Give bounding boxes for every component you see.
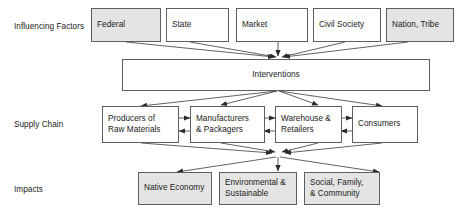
- node-consumers[interactable]: Consumers: [352, 106, 418, 143]
- node-warehouse-label: Warehouse & Retailers: [281, 114, 331, 135]
- row-label-impacts: Impacts: [14, 185, 43, 194]
- node-federal[interactable]: Federal: [91, 8, 161, 42]
- node-nation-tribe[interactable]: Nation, Tribe: [386, 8, 454, 42]
- node-interventions[interactable]: Interventions: [122, 59, 430, 91]
- node-warehouse-retailers[interactable]: Warehouse & Retailers: [275, 106, 342, 143]
- node-manufacturers-packagers[interactable]: Manufacturers & Packagers: [190, 106, 265, 143]
- node-native-economy-label: Native Economy: [144, 183, 204, 194]
- node-civil-society[interactable]: Civil Society: [313, 8, 381, 42]
- node-consumers-label: Consumers: [358, 119, 400, 130]
- node-state[interactable]: State: [166, 8, 229, 42]
- node-environmental-label: Environmental & Sustainable: [225, 178, 286, 199]
- diagram-canvas: Influencing Factors Supply Chain Impacts…: [0, 0, 463, 217]
- node-manufacturers-label: Manufacturers & Packagers: [196, 114, 249, 135]
- node-civil-society-label: Civil Society: [319, 20, 364, 31]
- node-nation-tribe-label: Nation, Tribe: [392, 20, 439, 31]
- node-native-economy[interactable]: Native Economy: [138, 172, 212, 205]
- node-social-family-label: Social, Family, & Community: [310, 178, 363, 199]
- row-label-influencing-factors: Influencing Factors: [14, 22, 84, 31]
- node-federal-label: Federal: [97, 20, 125, 31]
- node-producers-label: Producers of Raw Materials: [108, 114, 161, 135]
- node-market-label: Market: [242, 20, 267, 31]
- row-label-supply-chain: Supply Chain: [14, 120, 63, 129]
- node-state-label: State: [172, 20, 191, 31]
- node-market[interactable]: Market: [236, 8, 308, 42]
- node-environmental-sustainable[interactable]: Environmental & Sustainable: [219, 172, 297, 205]
- node-producers-of-raw-materials[interactable]: Producers of Raw Materials: [102, 106, 179, 143]
- node-interventions-label: Interventions: [252, 70, 300, 81]
- node-social-family-community[interactable]: Social, Family, & Community: [304, 172, 380, 205]
